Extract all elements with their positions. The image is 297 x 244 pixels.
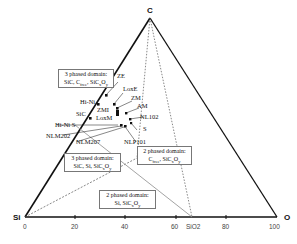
label-s: S — [143, 125, 147, 132]
domain-title: 2 phased domain: — [103, 192, 152, 200]
right-edge — [150, 18, 277, 217]
domain-box-sic-si-sicxoy: 3 phased domain: SiC, Si, SiCxOy — [64, 153, 121, 172]
left-edge — [25, 18, 150, 217]
domain-title: 3 phased domain: — [68, 155, 117, 163]
tick-label-80: 80 — [222, 223, 230, 230]
data-points — [89, 94, 132, 128]
domain-title: 3 phased domain: — [62, 71, 110, 79]
label-hini: Hi-Ni — [80, 98, 95, 105]
tick-label-sio2: SiO2 — [186, 223, 201, 230]
vertex-label-si: Si — [13, 213, 21, 222]
tick-label-40: 40 — [121, 223, 129, 230]
label-loxe: LoxE — [123, 85, 137, 92]
label-sic: SiC — [76, 110, 86, 117]
label-nlm202: NLM202 — [46, 132, 70, 139]
tie-line-c-sicxoy — [137, 18, 150, 158]
label-zm: ZM — [131, 94, 141, 101]
point-nlm — [124, 125, 127, 128]
label-hinis: Hi-Ni S — [55, 121, 76, 128]
domain-phases: SiC, Si, SiCxOy — [68, 163, 117, 173]
domain-title: 2 phased domain: — [141, 148, 188, 156]
domain-box-cfree-sicxoy: 2 phased domain: Cfree, SiCxOy — [137, 146, 192, 165]
label-ze: ZE — [117, 72, 125, 79]
domain-phases: SiC, Cfree, SiCxOy — [62, 79, 110, 89]
point-sic — [89, 117, 92, 120]
tick-label-100: 100 — [269, 223, 280, 230]
tick-label-0: 0 — [23, 223, 27, 230]
tick-label-60: 60 — [171, 223, 179, 230]
domain-box-si-sicxoy: 2 phased domain: Si, SiCxOy — [99, 190, 156, 209]
label-nl102: NL102 — [140, 113, 158, 120]
tick-label-20: 20 — [71, 223, 79, 230]
label-nlm207: NLM207 — [76, 138, 101, 145]
domain-phases: Si, SiCxOy — [103, 200, 152, 210]
label-am: AM — [137, 102, 148, 109]
domain-phases: Cfree, SiCxOy — [141, 156, 188, 166]
domain-box-sic-cfree-sicxoy: 3 phased domain: SiC, Cfree, SiCxOy — [58, 69, 114, 88]
label-loxm: LoxM — [96, 114, 112, 121]
point-loxm — [116, 113, 119, 116]
point-zmi — [116, 110, 119, 113]
vertex-label-c: C — [147, 6, 153, 15]
vertex-label-o: O — [284, 213, 290, 222]
label-nlp101: NLP101 — [124, 138, 146, 145]
label-zmi: ZMI — [97, 106, 109, 113]
